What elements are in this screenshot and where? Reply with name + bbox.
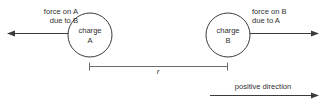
charge-b-label: charge B <box>206 26 250 45</box>
positive-direction-arrow-head <box>311 92 319 98</box>
force-on-a-label-line2: due to B <box>0 16 78 25</box>
charge-a-label: charge A <box>68 26 112 45</box>
charge-b-label-line2: B <box>206 36 250 46</box>
separation-symbol-label: r <box>144 67 172 76</box>
force-on-a-arrow <box>7 30 70 36</box>
force-on-a-label-line1: force on A <box>0 7 78 16</box>
physics-force-diagram: force on A due to B force on B due to A … <box>0 0 326 103</box>
force-on-b-arrow-head <box>311 30 319 36</box>
force-on-b-label: force on B due to A <box>252 7 326 25</box>
force-on-a-label: force on A due to B <box>0 7 78 25</box>
positive-direction-label: positive direction <box>200 82 326 91</box>
charge-a-label-line1: charge <box>68 26 112 36</box>
charge-a-label-line2: A <box>68 36 112 46</box>
force-on-a-arrow-head <box>7 30 15 36</box>
force-on-b-label-line1: force on B <box>252 7 326 16</box>
charge-b-label-line1: charge <box>206 26 250 36</box>
force-on-b-arrow <box>250 30 319 36</box>
positive-direction-arrow <box>210 92 319 98</box>
force-on-b-label-line2: due to A <box>252 16 326 25</box>
